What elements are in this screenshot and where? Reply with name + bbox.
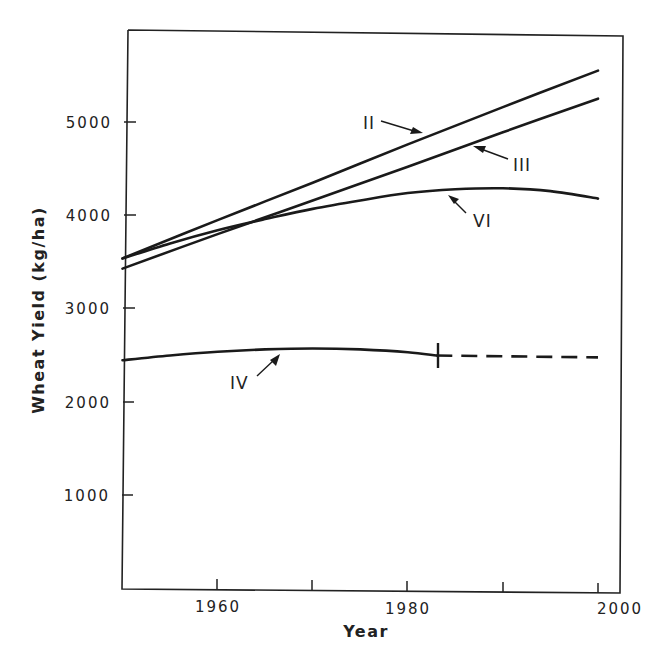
annotation-IV: IV: [230, 354, 280, 393]
x-axis: 1960 1980 2000 Year: [195, 579, 643, 641]
y-tick-label-3000: 3000: [65, 300, 111, 318]
series-line-iv-projected: [436, 356, 598, 358]
y-tick-label-1000: 1000: [64, 487, 110, 505]
x-tick-label-1960: 1960: [195, 598, 241, 616]
annotation-II: II: [363, 113, 423, 134]
x-axis-title: Year: [342, 622, 389, 641]
y-axis: 5000 4000 3000 2000 1000 Wheat Yield (kg…: [29, 114, 136, 505]
arrow-IV: [257, 360, 274, 376]
arrowhead-IV: [270, 354, 280, 366]
y-tick-label-2000: 2000: [65, 394, 111, 412]
arrow-III: [481, 149, 508, 159]
label-series-III: III: [513, 155, 531, 175]
label-series-II: II: [363, 113, 375, 133]
label-series-IV: IV: [230, 373, 249, 393]
y-tick-label-5000: 5000: [66, 114, 112, 132]
series-line-vi: [123, 188, 599, 258]
series-layer: [123, 71, 599, 361]
x-tick-label-2000: 2000: [597, 600, 643, 618]
annotation-III: III: [473, 146, 531, 175]
y-axis-title: Wheat Yield (kg/ha): [29, 206, 48, 414]
x-tick-label-1980: 1980: [385, 600, 431, 618]
y-tick-label-4000: 4000: [66, 207, 112, 225]
arrowhead-III: [473, 146, 486, 153]
series-line-iv: [123, 349, 437, 361]
label-series-VI: VI: [473, 211, 492, 231]
annotation-VI: VI: [448, 195, 492, 231]
arrowhead-VI: [448, 195, 459, 204]
wheat-yield-chart: 5000 4000 3000 2000 1000 Wheat Yield (kg…: [0, 0, 667, 650]
arrowhead-II: [410, 127, 423, 134]
arrow-II: [381, 121, 414, 131]
series-line-iii: [123, 99, 599, 269]
